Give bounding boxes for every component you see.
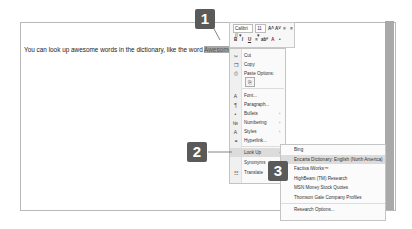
callout-badge-2: 2 <box>187 142 207 162</box>
callout-connectors <box>0 0 412 229</box>
callout-1-line <box>213 27 220 40</box>
callout-badge-1: 1 <box>195 9 215 29</box>
callout-badge-3: 3 <box>268 161 288 181</box>
